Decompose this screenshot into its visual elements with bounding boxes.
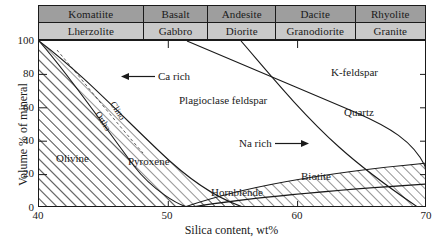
x-tick-70: 70 [406, 209, 436, 221]
x-axis-title: Silica content, wt% [18, 223, 436, 238]
top-axis-ticks [168, 41, 297, 48]
hornblende-label: Hornblende [211, 187, 263, 198]
na-rich-label: Na rich [239, 137, 272, 149]
plagioclase-feldspar-label: Plagioclase feldspar [179, 95, 267, 106]
ca-rich-annotation: Ca rich [121, 70, 190, 82]
header-cell-plutonic-2: Diorite [208, 23, 276, 39]
y-axis-title: Volume % of mineral [16, 83, 31, 186]
quartz-right-edge [425, 166, 426, 184]
y-tick-80: 80 [23, 68, 34, 79]
header-label: Basalt [161, 8, 189, 20]
header-label: Lherzolite [68, 25, 114, 37]
ca-rich-label: Ca rich [158, 70, 190, 82]
biotite-label: Biotite [301, 171, 331, 182]
header-cell-volcanic-0: Komatiite [39, 6, 144, 22]
plot-area: Ca rich Na rich Plagioclase feldspar K-f… [38, 40, 426, 207]
header-cell-plutonic-1: Gabbro [144, 23, 209, 39]
y-tick-100: 100 [18, 35, 35, 46]
left-arrow-icon [121, 72, 155, 81]
kfeldspar-label: K-feldspar [331, 67, 378, 78]
header-cell-plutonic-4: Granite [356, 23, 425, 39]
olivine-label: Olivine [56, 153, 89, 164]
x-tick-60: 60 [277, 209, 317, 221]
na-rich-annotation: Na rich [239, 137, 309, 149]
header-label: Granite [373, 25, 407, 37]
x-tick-40: 40 [18, 209, 58, 221]
header-label: Andesite [222, 8, 262, 20]
pyroxene-label: Pyroxene [128, 156, 170, 167]
header-cell-volcanic-1: Basalt [144, 6, 209, 22]
header-cell-plutonic-0: Lherzolite [39, 23, 144, 39]
header-label: Komatiite [68, 8, 113, 20]
header-cell-volcanic-2: Andesite [208, 6, 276, 22]
header-cell-plutonic-3: Granodiorite [276, 23, 356, 39]
header-cell-volcanic-3: Dacite [276, 6, 356, 22]
plutonic-rock-header-row: Lherzolite Gabbro Diorite Granodiorite G… [38, 22, 426, 40]
header-cell-volcanic-4: Rhyolite [356, 6, 425, 22]
x-tick-50: 50 [147, 209, 187, 221]
header-label: Rhyolite [371, 8, 410, 20]
header-label: Diorite [226, 25, 258, 37]
volcanic-rock-header-row: Komatiite Basalt Andesite Dacite Rhyolit… [38, 5, 426, 22]
header-label: Granodiorite [287, 25, 344, 37]
right-arrow-icon [275, 139, 309, 148]
header-label: Gabbro [159, 25, 193, 37]
quartz-label: Quartz [344, 107, 374, 118]
header-label: Dacite [301, 8, 330, 20]
